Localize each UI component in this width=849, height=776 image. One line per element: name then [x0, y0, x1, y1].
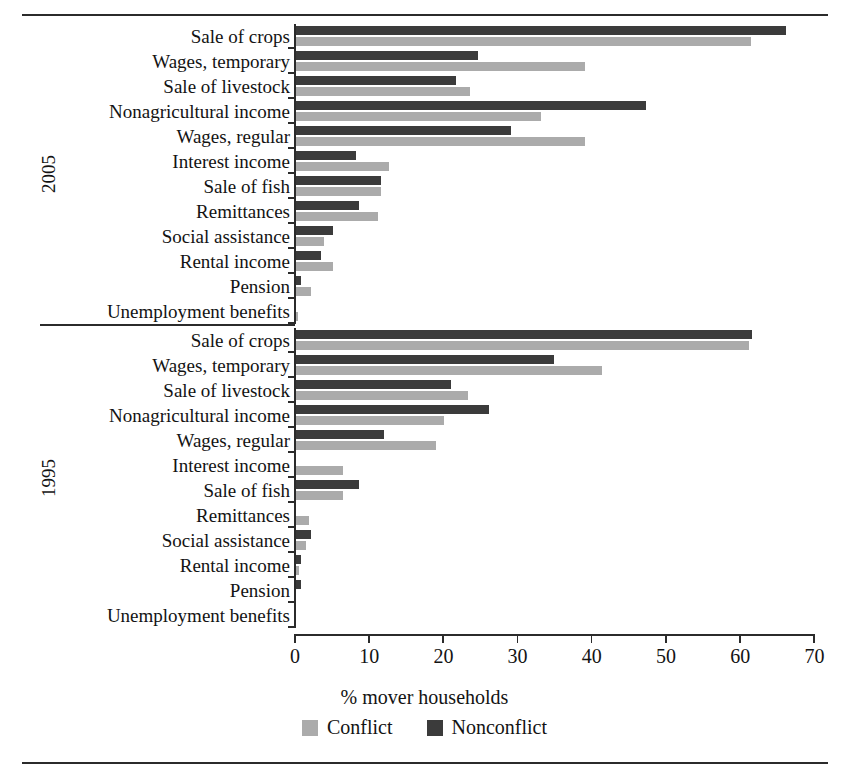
bar-group	[296, 201, 378, 221]
bar-group	[296, 76, 470, 96]
bar-nonconflict	[296, 226, 333, 235]
x-axis-tick	[665, 634, 667, 643]
x-axis-tick	[517, 634, 519, 643]
category-row: Remittances	[0, 199, 849, 224]
x-axis-label: % mover households	[0, 686, 849, 709]
category-row: Social assistance	[0, 528, 849, 553]
category-row: Nonagricultural income	[0, 99, 849, 124]
legend-swatch-conflict-icon	[302, 720, 318, 736]
bar-conflict	[296, 237, 324, 246]
x-axis-tick	[368, 634, 370, 643]
bar-group	[296, 455, 343, 475]
category-row: Wages, temporary	[0, 353, 849, 378]
bar-nonconflict	[296, 126, 511, 135]
x-axis-tick-label: 0	[270, 645, 320, 668]
category-label: Interest income	[0, 453, 290, 478]
bar-nonconflict	[296, 176, 381, 185]
category-label: Sale of livestock	[0, 74, 290, 99]
bar-conflict	[296, 541, 306, 550]
bar-nonconflict	[296, 580, 301, 589]
category-label: Social assistance	[0, 528, 290, 553]
category-row: Nonagricultural income	[0, 403, 849, 428]
bar-group	[296, 330, 752, 350]
x-axis-tick-label: 60	[715, 645, 765, 668]
x-axis-tick-label: 50	[641, 645, 691, 668]
bar-group	[296, 355, 602, 375]
x-axis-tick	[442, 634, 444, 643]
category-label: Nonagricultural income	[0, 99, 290, 124]
x-axis-tick	[739, 634, 741, 643]
bar-group	[296, 51, 585, 71]
category-row: Rental income	[0, 249, 849, 274]
bar-group	[296, 301, 298, 321]
category-label: Sale of fish	[0, 478, 290, 503]
x-axis-tick-label: 70	[789, 645, 839, 668]
bar-conflict	[296, 441, 436, 450]
legend-item-nonconflict: Nonconflict	[427, 716, 548, 739]
bar-nonconflict	[296, 405, 489, 414]
legend: Conflict Nonconflict	[0, 716, 849, 739]
category-label: Wages, temporary	[0, 353, 290, 378]
category-row: Remittances	[0, 503, 849, 528]
bar-group	[296, 580, 301, 600]
bar-group	[296, 26, 786, 46]
bar-nonconflict	[296, 555, 301, 564]
bar-nonconflict	[296, 355, 554, 364]
category-label: Rental income	[0, 249, 290, 274]
bar-nonconflict	[296, 330, 752, 339]
category-row: Social assistance	[0, 224, 849, 249]
category-row: Unemployment benefits	[0, 299, 849, 324]
bar-conflict	[296, 366, 602, 375]
bar-group	[296, 151, 389, 171]
bar-nonconflict	[296, 480, 359, 489]
category-tick	[288, 626, 295, 628]
figure-top-rule	[22, 14, 828, 16]
category-label: Rental income	[0, 553, 290, 578]
bar-group	[296, 126, 585, 146]
category-label: Interest income	[0, 149, 290, 174]
legend-label-nonconflict: Nonconflict	[452, 716, 548, 739]
category-label: Remittances	[0, 503, 290, 528]
x-axis-tick-label: 40	[567, 645, 617, 668]
x-axis-tick	[591, 634, 593, 643]
legend-swatch-nonconflict-icon	[427, 720, 443, 736]
category-row: Sale of livestock	[0, 378, 849, 403]
bar-group	[296, 176, 381, 196]
category-row: Interest income	[0, 149, 849, 174]
category-row: Sale of livestock	[0, 74, 849, 99]
category-label: Pension	[0, 578, 290, 603]
category-label: Social assistance	[0, 224, 290, 249]
bar-group	[296, 530, 311, 550]
plot-area: 2005 Sale of cropsWages, temporarySale o…	[0, 24, 849, 634]
category-label: Remittances	[0, 199, 290, 224]
bar-conflict	[296, 566, 299, 575]
bar-conflict	[296, 516, 309, 525]
category-label: Wages, temporary	[0, 49, 290, 74]
bar-conflict	[296, 341, 749, 350]
category-row: Sale of crops	[0, 24, 849, 49]
bar-nonconflict	[296, 251, 321, 260]
panel-1995: 1995 Sale of cropsWages, temporarySale o…	[0, 328, 849, 628]
category-label: Wages, regular	[0, 124, 290, 149]
bar-conflict	[296, 466, 343, 475]
bar-conflict	[296, 491, 343, 500]
bar-conflict	[296, 62, 585, 71]
category-row: Interest income	[0, 453, 849, 478]
legend-label-conflict: Conflict	[327, 716, 393, 739]
bar-conflict	[296, 416, 444, 425]
category-row: Wages, temporary	[0, 49, 849, 74]
bar-nonconflict	[296, 26, 786, 35]
bar-group	[296, 505, 309, 525]
x-axis-tick-label: 30	[493, 645, 543, 668]
bar-nonconflict	[296, 51, 478, 60]
category-row: Pension	[0, 578, 849, 603]
bar-nonconflict	[296, 151, 356, 160]
category-label: Sale of fish	[0, 174, 290, 199]
bar-conflict	[296, 87, 470, 96]
bar-conflict	[296, 287, 311, 296]
panel-separator-upper	[40, 324, 295, 326]
x-axis-tick-label: 20	[418, 645, 468, 668]
bar-nonconflict	[296, 430, 384, 439]
x-axis-line	[294, 634, 815, 636]
bar-nonconflict	[296, 201, 359, 210]
